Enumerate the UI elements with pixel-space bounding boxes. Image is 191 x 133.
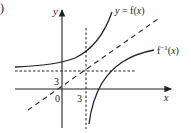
y-tick-3: 3 bbox=[54, 76, 59, 87]
x-axis-label: x bbox=[163, 92, 169, 103]
f-curve-label: y = f(x) bbox=[114, 5, 145, 17]
f-curve bbox=[15, 12, 112, 67]
part-label: ) bbox=[0, 1, 4, 15]
f-inverse-curve bbox=[89, 50, 154, 124]
f-inverse-label: f−1(x) bbox=[157, 44, 179, 57]
origin-label: 0 bbox=[55, 93, 60, 104]
x-tick-3: 3 bbox=[77, 93, 82, 104]
function-inverse-diagram: ) y x 0 3 3 y = f(x) f−1(x) bbox=[0, 0, 191, 133]
y-axis-label: y bbox=[52, 5, 58, 17]
